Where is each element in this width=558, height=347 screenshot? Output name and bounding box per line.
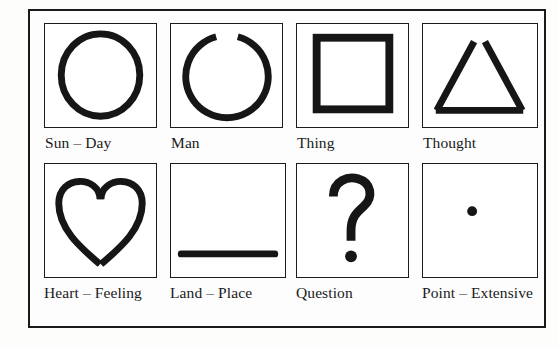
symbol-box-question — [296, 163, 409, 278]
square-icon — [297, 24, 408, 127]
symbol-box-point-extensive — [422, 163, 538, 278]
caption-thought: Thought — [423, 135, 476, 151]
caption-thing: Thing — [297, 135, 335, 151]
symbol-grid: Sun – Day Man Thing — [30, 11, 544, 326]
caption-land-place: Land – Place — [170, 285, 252, 301]
figure-outer-frame: Sun – Day Man Thing — [28, 9, 546, 328]
question-mark-icon — [297, 164, 408, 277]
caption-heart-feeling: Heart – Feeling — [44, 285, 142, 301]
dot-icon — [423, 164, 537, 277]
caption-man: Man — [171, 135, 200, 151]
symbol-box-heart-feeling — [44, 163, 157, 278]
open-circle-icon — [171, 24, 282, 127]
symbol-box-man — [170, 23, 283, 128]
symbol-box-thing — [296, 23, 409, 128]
caption-sun-day: Sun – Day — [45, 135, 111, 151]
horizontal-bar-icon — [171, 164, 285, 277]
symbol-box-sun-day — [44, 23, 157, 128]
symbol-box-thought — [422, 23, 538, 128]
heart-icon — [45, 164, 156, 277]
open-triangle-icon — [423, 24, 537, 127]
circle-icon — [45, 24, 156, 127]
caption-question: Question — [296, 285, 353, 301]
caption-point-extensive: Point – Extensive — [422, 285, 533, 301]
symbol-box-land-place — [170, 163, 286, 278]
